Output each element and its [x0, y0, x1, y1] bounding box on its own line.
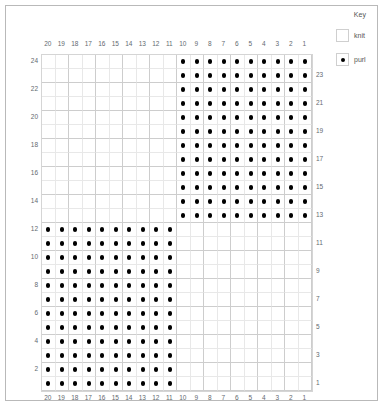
stitch-cell [150, 153, 164, 167]
stitch-cell [218, 293, 232, 307]
purl-dot-icon [208, 157, 212, 161]
purl-dot-icon [249, 171, 253, 175]
purl-dot-icon [100, 311, 104, 315]
stitch-cell [137, 377, 151, 391]
purl-dot-icon [100, 325, 104, 329]
purl-dot-icon [73, 269, 77, 273]
stitch-cell [123, 167, 137, 181]
purl-dot-icon [289, 101, 293, 105]
stitch-cell [299, 181, 313, 195]
purl-dot-icon [276, 129, 280, 133]
stitch-cell [150, 181, 164, 195]
stitch-cell [123, 139, 137, 153]
column-label: 7 [217, 394, 231, 401]
stitch-cell [177, 307, 191, 321]
stitch-cell [164, 83, 178, 97]
row-label: 19 [316, 124, 332, 138]
stitch-cell [110, 363, 124, 377]
stitch-cell [56, 349, 70, 363]
stitch-cell [96, 279, 110, 293]
stitch-cell [150, 139, 164, 153]
purl-dot-icon [262, 101, 266, 105]
stitch-cell [137, 321, 151, 335]
stitch-cell [56, 83, 70, 97]
purl-dot-icon [222, 171, 226, 175]
stitch-cell [204, 167, 218, 181]
stitch-cell [96, 209, 110, 223]
purl-dot-icon [60, 227, 64, 231]
stitch-cell [245, 97, 259, 111]
row-label: 6 [22, 306, 38, 320]
stitch-cell [272, 307, 286, 321]
stitch-cell [137, 363, 151, 377]
purl-dot-icon [276, 59, 280, 63]
purl-dot-icon [60, 269, 64, 273]
purl-dot-icon [141, 339, 145, 343]
stitch-cell [191, 377, 205, 391]
purl-dot-icon [276, 157, 280, 161]
stitch-cell [258, 111, 272, 125]
purl-dot-icon [87, 353, 91, 357]
purl-dot-icon [168, 297, 172, 301]
purl-dot-icon [235, 199, 239, 203]
stitch-cell [42, 167, 56, 181]
purl-dot-icon [222, 115, 226, 119]
purl-dot-icon [181, 157, 185, 161]
stitch-cell [137, 153, 151, 167]
purl-dot-icon [195, 171, 199, 175]
stitch-cell [272, 83, 286, 97]
stitch-cell [56, 307, 70, 321]
purl-dot-icon [276, 171, 280, 175]
stitch-cell [150, 111, 164, 125]
stitch-cell [110, 167, 124, 181]
stitch-cell [245, 69, 259, 83]
stitch-cell [191, 307, 205, 321]
stitch-cell [56, 363, 70, 377]
purl-dot-icon [208, 129, 212, 133]
stitch-cell [83, 181, 97, 195]
stitch-cell [285, 181, 299, 195]
stitch-cell [231, 307, 245, 321]
purl-dot-icon [73, 381, 77, 385]
stitch-cell [258, 349, 272, 363]
stitch-cell [204, 195, 218, 209]
stitch-cell [96, 111, 110, 125]
stitch-cell [218, 111, 232, 125]
stitch-cell [42, 83, 56, 97]
stitch-cell [177, 153, 191, 167]
stitch-cell [177, 377, 191, 391]
purl-dot-icon [181, 199, 185, 203]
purl-dot-icon [168, 269, 172, 273]
stitch-cell [177, 251, 191, 265]
stitch-cell [69, 167, 83, 181]
stitch-cell [191, 195, 205, 209]
column-label: 12 [149, 40, 163, 47]
purl-dot-icon [154, 227, 158, 231]
stitch-cell [150, 223, 164, 237]
stitch-cell [191, 349, 205, 363]
column-label: 1 [298, 40, 312, 47]
stitch-cell [231, 111, 245, 125]
stitch-cell [69, 223, 83, 237]
purl-dot-icon [114, 269, 118, 273]
stitch-cell [69, 349, 83, 363]
purl-dot-icon [154, 353, 158, 357]
stitch-cell [96, 265, 110, 279]
key-label-purl: purl [354, 56, 366, 63]
purl-dot-icon [87, 255, 91, 259]
purl-dot-icon [249, 87, 253, 91]
stitch-cell [258, 335, 272, 349]
stitch-cell [150, 321, 164, 335]
purl-dot-icon [168, 311, 172, 315]
purl-dot-icon [181, 129, 185, 133]
stitch-cell [96, 377, 110, 391]
stitch-cell [204, 293, 218, 307]
purl-dot-icon [181, 143, 185, 147]
column-label: 18 [68, 40, 82, 47]
stitch-cell [245, 167, 259, 181]
stitch-cell [258, 377, 272, 391]
stitch-cell [42, 209, 56, 223]
stitch-cell [56, 111, 70, 125]
row-label: 12 [22, 222, 38, 236]
purl-dot-icon [341, 58, 345, 62]
